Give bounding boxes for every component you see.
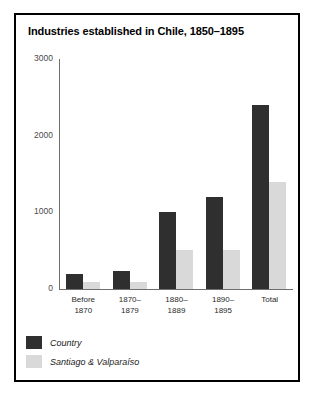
bar-country xyxy=(252,105,269,289)
bar-country xyxy=(206,197,223,289)
legend-label: Santiago & Valparaíso xyxy=(50,357,139,367)
bar-santiago-valparaiso xyxy=(269,182,286,289)
plot-area: 0100020003000 Before18701870–18791880–18… xyxy=(16,15,302,384)
y-tick-label: 1000 xyxy=(9,207,53,216)
x-axis-line xyxy=(59,289,293,290)
chart-legend: CountrySantiago & Valparaíso xyxy=(26,333,139,371)
chart-figure: Industries established in Chile, 1850–18… xyxy=(14,13,300,382)
legend-label: Country xyxy=(50,338,82,348)
legend-item: Santiago & Valparaíso xyxy=(26,352,139,371)
legend-item: Country xyxy=(26,333,139,352)
bar-group xyxy=(252,59,286,289)
legend-swatch xyxy=(26,336,42,349)
y-tick-label: 2000 xyxy=(9,131,53,140)
bar-country xyxy=(159,212,176,289)
y-tick-label: 0 xyxy=(9,284,53,293)
y-tick-label: 3000 xyxy=(9,54,53,63)
x-tick-label: Total xyxy=(240,295,299,306)
x-tick-label-line: 1895 xyxy=(194,306,253,317)
bar-group xyxy=(206,59,240,289)
bar-group xyxy=(66,59,100,289)
bar-country xyxy=(66,274,83,289)
bar-group xyxy=(159,59,193,289)
legend-swatch xyxy=(26,355,42,368)
x-tick-label-line: Total xyxy=(240,295,299,306)
bar-santiago-valparaiso xyxy=(83,282,100,289)
bar-country xyxy=(113,271,130,289)
bar-group xyxy=(113,59,147,289)
bar-santiago-valparaiso xyxy=(223,250,240,289)
bar-santiago-valparaiso xyxy=(130,282,147,289)
bar-santiago-valparaiso xyxy=(176,250,193,289)
bar-groups xyxy=(60,59,293,289)
